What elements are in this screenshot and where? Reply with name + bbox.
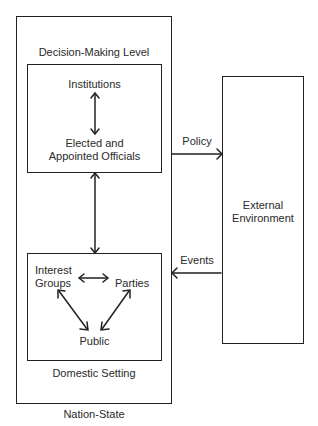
policy-label: Policy <box>172 135 222 148</box>
interest-groups-node-line1: Interest <box>35 264 72 277</box>
nation-state-title: Nation-State <box>16 408 172 421</box>
institutions-node: Institutions <box>27 78 162 91</box>
elected-officials-node-line1: Elected and <box>27 137 162 150</box>
interest-groups-node-line2: Groups <box>35 277 71 290</box>
policy-arrow <box>172 149 222 159</box>
events-label: Events <box>172 254 222 267</box>
domestic-setting-title: Domestic Setting <box>16 367 172 380</box>
public-node: Public <box>27 335 162 348</box>
events-arrow <box>172 268 221 278</box>
elected-officials-node-line2: Appointed Officials <box>27 150 162 163</box>
external-environment-line1: External <box>222 199 304 212</box>
parties-node: Parties <box>115 277 149 290</box>
external-environment-line2: Environment <box>222 212 304 225</box>
decision-making-title: Decision-Making Level <box>16 46 172 59</box>
